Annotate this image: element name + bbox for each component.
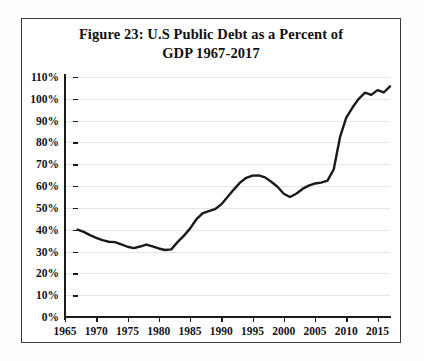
y-axis-tick-label: 90% — [15, 116, 59, 127]
y-axis-tick-label: 0% — [15, 312, 59, 323]
y-axis-tick-label: 100% — [15, 94, 59, 105]
y-axis-tick-label: 50% — [15, 203, 59, 214]
x-axis-tick-mark — [346, 317, 347, 322]
x-axis-tick-mark — [128, 317, 129, 322]
x-axis-tick-mark — [221, 317, 222, 322]
x-axis-tick-mark — [253, 317, 254, 322]
y-axis-tick-mark — [73, 121, 78, 122]
x-axis-tick-mark — [378, 317, 379, 322]
chart-title-line-2: GDP 1967-2017 — [30, 44, 392, 63]
y-axis-tick-label: 80% — [15, 137, 59, 148]
y-axis-tick-mark — [73, 186, 78, 187]
x-axis-tick-mark — [65, 317, 66, 322]
y-axis-line — [64, 74, 66, 320]
y-axis-tick-mark — [73, 142, 78, 143]
chart-title-line-1: Figure 23: U.S Public Debt as a Percent … — [30, 25, 392, 44]
y-axis-tick-mark — [73, 208, 78, 209]
figure-page: Figure 23: U.S Public Debt as a Percent … — [0, 0, 424, 361]
y-axis-tick-label: 40% — [15, 225, 59, 236]
y-axis-tick-label: 20% — [15, 268, 59, 279]
debt-percent-line-series — [65, 77, 390, 317]
x-axis-line — [64, 316, 391, 318]
y-axis-tick-mark — [73, 164, 78, 165]
y-axis-tick-mark — [73, 230, 78, 231]
chart-title: Figure 23: U.S Public Debt as a Percent … — [30, 25, 392, 63]
y-axis-tick-mark — [73, 273, 78, 274]
x-axis-tick-mark — [284, 317, 285, 322]
y-axis-tick-mark — [73, 77, 78, 78]
x-axis-tick-mark — [159, 317, 160, 322]
x-axis-tick-mark — [190, 317, 191, 322]
y-axis-tick-mark — [73, 295, 78, 296]
plot-area — [65, 77, 390, 317]
y-axis-tick-label: 30% — [15, 247, 59, 258]
y-axis-tick-label: 10% — [15, 290, 59, 301]
y-axis-tick-label: 110% — [15, 72, 59, 83]
x-axis-tick-mark — [315, 317, 316, 322]
y-axis-tick-label: 70% — [15, 159, 59, 170]
y-axis-tick-mark — [73, 99, 78, 100]
x-axis-tick-mark — [96, 317, 97, 322]
y-axis-tick-label: 60% — [15, 181, 59, 192]
x-axis-tick-label: 2015 — [358, 325, 398, 337]
y-axis-tick-mark — [73, 252, 78, 253]
y-axis-tick-labels: 110%100%90%80%70%60%50%40%30%20%10%0% — [13, 0, 59, 361]
y-axis-tick-mark — [73, 317, 78, 318]
